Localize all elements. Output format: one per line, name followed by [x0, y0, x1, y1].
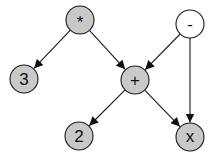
edge-plus-to-x	[145, 90, 180, 127]
edges-layer	[34, 30, 190, 126]
edge-minus-to-plus	[145, 34, 180, 70]
node-label: 2	[74, 127, 83, 146]
nodes-layer: *-3+2x	[10, 6, 204, 151]
node-x: x	[176, 123, 204, 151]
edge-mul-to-three	[34, 30, 70, 68]
node-label: *	[77, 13, 84, 32]
node-three: 3	[10, 65, 38, 93]
node-label: +	[130, 71, 140, 90]
node-two: 2	[65, 122, 93, 150]
node-label: 3	[19, 70, 28, 89]
edge-plus-to-two	[89, 90, 125, 126]
node-mul: *	[66, 6, 94, 34]
node-label: x	[186, 127, 195, 146]
node-label: -	[187, 15, 193, 34]
edge-mul-to-plus	[89, 30, 125, 69]
node-plus: +	[121, 66, 149, 94]
node-minus: -	[176, 10, 204, 38]
expression-dag-diagram: *-3+2x	[0, 0, 217, 157]
